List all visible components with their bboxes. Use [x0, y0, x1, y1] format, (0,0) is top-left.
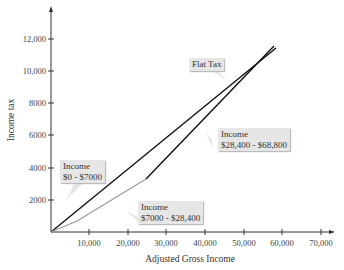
bracket1-callout-range: $0 - $7000: [63, 172, 102, 183]
x-axis-arrow-icon: [329, 230, 335, 234]
x-tick-label: 30,000: [154, 238, 177, 248]
y-tick-label: 10,000: [23, 66, 46, 76]
bracket3-callout: Income $28,400 - $68,800: [218, 128, 290, 151]
y-tick-label: 2000: [29, 195, 46, 205]
x-tick-label: 10,000: [77, 238, 100, 248]
bracket2-callout-range: $7000 - $28,400: [141, 213, 200, 224]
bracket1-callout-title: Income: [63, 161, 102, 172]
y-tick-label: 12,000: [23, 34, 46, 44]
bracket2-callout-title: Income: [141, 202, 200, 213]
bracket2-callout: Income $7000 - $28,400: [138, 201, 203, 224]
progressive-tax-lower-brackets-line: [51, 179, 146, 232]
x-tick-label: 60,000: [270, 238, 293, 248]
y-tick-label: 8000: [29, 98, 46, 108]
flat-tax-pointer: [212, 71, 226, 80]
flat-tax-callout: Flat Tax: [189, 58, 224, 71]
x-tick-label: 50,000: [232, 238, 255, 248]
bracket3-pointer: [206, 133, 212, 147]
flat-tax-callout-label: Flat Tax: [192, 59, 221, 70]
x-tick-label: 40,000: [193, 238, 216, 248]
x-tick-label: 70,000: [309, 238, 332, 248]
bracket1-callout: Income $0 - $7000: [60, 160, 105, 183]
y-tick-label: 4000: [29, 163, 46, 173]
bracket3-callout-range: $28,400 - $68,800: [221, 140, 287, 151]
bracket1-pointer: [66, 184, 82, 200]
y-axis-title: Income tax: [6, 99, 16, 142]
y-axis-arrow-icon: [49, 6, 53, 12]
bracket3-callout-title: Income: [221, 129, 287, 140]
x-tick-label: 20,000: [116, 238, 139, 248]
x-axis-title: Adjusted Gross Income: [145, 254, 235, 264]
y-tick-label: 6000: [29, 130, 46, 140]
tax-chart: 2000 4000 6000 8000 10,000 12,000 10,000…: [0, 0, 344, 270]
